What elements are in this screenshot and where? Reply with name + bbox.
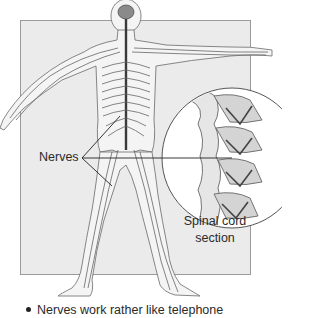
spinal-cord-section-inset (162, 88, 282, 230)
caption-text: Nerves work rather like telephone (37, 303, 223, 317)
spinal-cord-label-line2: section (180, 230, 250, 247)
nerves-label: Nerves (39, 151, 79, 164)
caption-bullet: Nerves work rather like telephone (26, 303, 223, 317)
bullet-icon (26, 307, 31, 312)
spinal-cord-section-label: Spinal cord section (180, 213, 250, 247)
brain-icon (118, 5, 134, 19)
spinal-cord-label-line1: Spinal cord (180, 213, 250, 230)
